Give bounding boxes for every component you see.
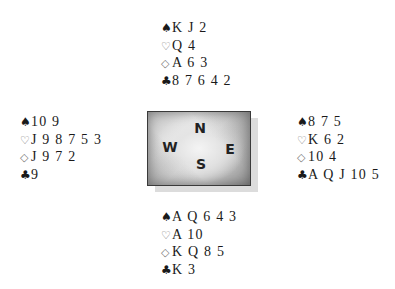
- spade-icon: ♠: [20, 114, 31, 132]
- north-diamonds-cards: A 6 3: [172, 55, 208, 70]
- west-spades-cards: 10 9: [31, 114, 60, 129]
- south-spades-cards: A Q 6 4 3: [172, 209, 237, 224]
- compass-south-label: S: [196, 157, 206, 171]
- south-hearts-line: ♡A 10: [161, 226, 237, 244]
- club-icon: ♣: [161, 73, 172, 91]
- compass-north-label: N: [194, 121, 206, 135]
- north-hearts-line: ♡Q 4: [161, 37, 232, 55]
- spade-icon: ♠: [297, 114, 308, 132]
- east-spades-cards: 8 7 5: [308, 114, 342, 129]
- heart-icon: ♡: [161, 38, 172, 56]
- south-clubs-line: ♣K 3: [161, 261, 237, 279]
- north-clubs-cards: 8 7 6 4 2: [172, 73, 232, 88]
- diamond-icon: ◇: [161, 244, 172, 262]
- club-icon: ♣: [297, 167, 308, 185]
- south-hearts-cards: A 10: [172, 227, 204, 242]
- north-spades-cards: K J 2: [172, 20, 208, 35]
- north-diamonds-line: ◇A 6 3: [161, 54, 232, 72]
- compass-east-label: E: [225, 142, 235, 156]
- club-icon: ♣: [161, 262, 172, 280]
- heart-icon: ♡: [297, 132, 308, 150]
- east-hearts-line: ♡K 6 2: [297, 131, 380, 149]
- north-hearts-cards: Q 4: [172, 38, 196, 53]
- west-diamonds-cards: J 9 7 2: [31, 149, 76, 164]
- north-spades-line: ♠K J 2: [161, 19, 232, 37]
- east-diamonds-line: ◇10 4: [297, 148, 380, 166]
- east-hearts-cards: K 6 2: [308, 132, 345, 147]
- west-hearts-cards: J 9 8 7 5 3: [31, 132, 102, 147]
- east-clubs-line: ♣A Q J 10 5: [297, 166, 380, 184]
- south-clubs-cards: K 3: [172, 262, 196, 277]
- west-clubs-line: ♣9: [20, 166, 102, 184]
- club-icon: ♣: [20, 167, 31, 185]
- west-hand: ♠10 9 ♡J 9 8 7 5 3 ◇J 9 7 2 ♣9: [20, 113, 102, 183]
- compass-west-label: W: [162, 140, 177, 154]
- west-spades-line: ♠10 9: [20, 113, 102, 131]
- heart-icon: ♡: [20, 132, 31, 150]
- compass-box: N W E S: [147, 111, 251, 186]
- east-diamonds-cards: 10 4: [308, 149, 337, 164]
- east-spades-line: ♠8 7 5: [297, 113, 380, 131]
- east-clubs-cards: A Q J 10 5: [308, 167, 380, 182]
- west-diamonds-line: ◇J 9 7 2: [20, 148, 102, 166]
- east-hand: ♠8 7 5 ♡K 6 2 ◇10 4 ♣A Q J 10 5: [297, 113, 380, 183]
- spade-icon: ♠: [161, 209, 172, 227]
- north-clubs-line: ♣8 7 6 4 2: [161, 72, 232, 90]
- spade-icon: ♠: [161, 20, 172, 38]
- heart-icon: ♡: [161, 227, 172, 245]
- diamond-icon: ◇: [20, 149, 31, 167]
- west-hearts-line: ♡J 9 8 7 5 3: [20, 131, 102, 149]
- west-clubs-cards: 9: [31, 167, 39, 182]
- south-hand: ♠A Q 6 4 3 ♡A 10 ◇K Q 8 5 ♣K 3: [161, 208, 237, 278]
- south-diamonds-line: ◇K Q 8 5: [161, 243, 237, 261]
- north-hand: ♠K J 2 ♡Q 4 ◇A 6 3 ♣8 7 6 4 2: [161, 19, 232, 89]
- south-diamonds-cards: K Q 8 5: [172, 244, 225, 259]
- diamond-icon: ◇: [297, 149, 308, 167]
- south-spades-line: ♠A Q 6 4 3: [161, 208, 237, 226]
- diamond-icon: ◇: [161, 55, 172, 73]
